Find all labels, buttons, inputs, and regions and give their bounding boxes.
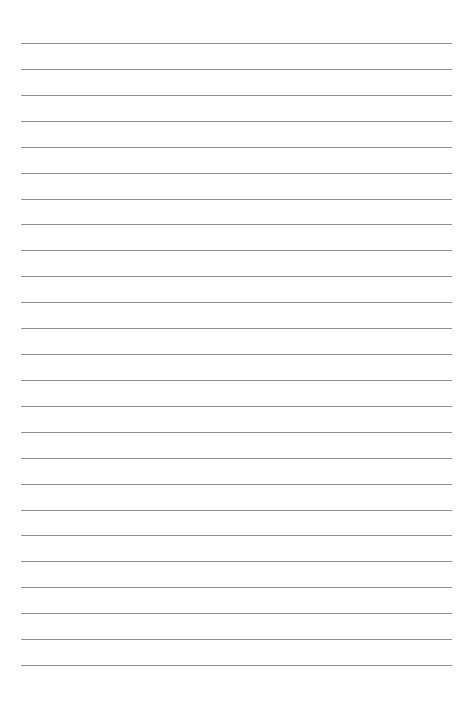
ruled-line xyxy=(21,406,452,407)
ruled-line xyxy=(21,535,452,536)
ruled-line xyxy=(21,69,452,70)
ruled-line xyxy=(21,484,452,485)
ruled-line xyxy=(21,561,452,562)
ruled-line xyxy=(21,302,452,303)
ruled-line xyxy=(21,587,452,588)
ruled-line xyxy=(21,173,452,174)
ruled-line xyxy=(21,458,452,459)
ruled-line xyxy=(21,432,452,433)
ruled-line xyxy=(21,224,452,225)
ruled-line xyxy=(21,510,452,511)
ruled-line xyxy=(21,354,452,355)
ruled-line xyxy=(21,43,452,44)
ruled-line xyxy=(21,95,452,96)
ruled-line xyxy=(21,639,452,640)
ruled-line xyxy=(21,147,452,148)
ruled-line xyxy=(21,613,452,614)
lined-paper-page xyxy=(0,0,472,701)
ruled-line xyxy=(21,276,452,277)
ruled-line xyxy=(21,665,452,666)
ruled-line xyxy=(21,250,452,251)
ruled-line xyxy=(21,380,452,381)
ruled-line xyxy=(21,121,452,122)
ruled-line xyxy=(21,199,452,200)
ruled-line xyxy=(21,328,452,329)
